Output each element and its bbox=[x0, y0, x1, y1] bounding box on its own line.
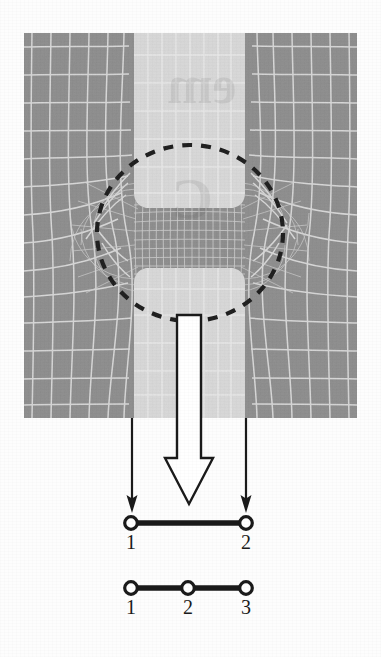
node-label-2node-2: 2 bbox=[236, 532, 256, 552]
node-marker bbox=[240, 517, 253, 530]
node-label-3node-2: 2 bbox=[178, 597, 198, 617]
deformed-finite-element-mesh: em C bbox=[24, 33, 357, 418]
mesh-svg: em C bbox=[24, 33, 357, 418]
node-label-3node-1: 1 bbox=[121, 597, 141, 617]
node-label-3node-3: 3 bbox=[236, 597, 256, 617]
node-marker bbox=[125, 582, 138, 595]
node-marker bbox=[125, 517, 138, 530]
reaction-arrow-right bbox=[241, 418, 252, 513]
figure-page: emk bbox=[0, 0, 381, 657]
reaction-arrow-left bbox=[127, 418, 138, 513]
node-marker bbox=[182, 582, 195, 595]
three-node-contact-element bbox=[125, 582, 253, 595]
node-marker bbox=[240, 582, 253, 595]
two-node-contact-element bbox=[125, 517, 253, 530]
node-label-2node-1: 1 bbox=[121, 532, 141, 552]
